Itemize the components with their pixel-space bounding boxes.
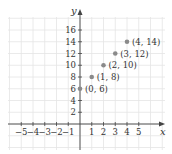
y-axis-label: y xyxy=(70,5,77,16)
y-tick-label: 10 xyxy=(65,60,76,70)
x-tick-label: 3 xyxy=(113,127,118,137)
coordinate-plane: −5−4−3−2−112345246810121416 (0, 6)(1, 8)… xyxy=(0,0,172,154)
y-tick-label: 6 xyxy=(71,84,76,94)
x-tick-label: −4 xyxy=(27,127,40,137)
y-tick-label: 16 xyxy=(65,25,76,35)
data-point xyxy=(78,86,83,91)
y-tick-label: 12 xyxy=(65,49,76,59)
data-point xyxy=(113,51,118,56)
x-tick-label: −3 xyxy=(38,127,51,137)
y-tick-label: 2 xyxy=(71,107,76,117)
x-tick-label: 4 xyxy=(124,127,129,137)
data-point xyxy=(101,63,106,68)
data-point-label: (3, 12) xyxy=(120,49,148,59)
data-point-label: (1, 8) xyxy=(97,72,120,82)
x-tick-label: −1 xyxy=(62,127,75,137)
x-tick-label: 5 xyxy=(136,127,141,137)
y-tick-label: 8 xyxy=(71,72,76,82)
data-point xyxy=(125,39,130,44)
x-tick-label: −5 xyxy=(15,127,28,137)
y-axis-arrow xyxy=(78,9,83,15)
data-point-label: (2, 10) xyxy=(109,60,137,70)
x-tick-label: −2 xyxy=(50,127,63,137)
data-point-label: (0, 6) xyxy=(85,84,108,94)
x-tick-label: 1 xyxy=(89,127,94,137)
y-tick-label: 14 xyxy=(65,37,76,47)
x-axis-label: x xyxy=(160,126,166,137)
y-tick-label: 4 xyxy=(71,96,76,106)
data-point-label: (4, 14) xyxy=(132,37,160,47)
data-point xyxy=(89,75,94,80)
x-tick-label: 2 xyxy=(101,127,106,137)
